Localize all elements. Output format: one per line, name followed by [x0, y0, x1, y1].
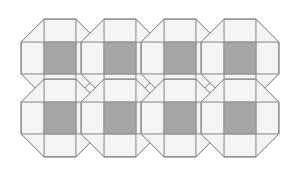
trapezoid-top — [164, 79, 196, 102]
trapezoid-top — [164, 19, 196, 42]
center-square — [224, 42, 256, 74]
trapezoid-bottom — [44, 134, 76, 157]
center-square — [44, 102, 76, 134]
center-square — [224, 102, 256, 134]
tessellation-figure — [0, 0, 297, 189]
trapezoid-top — [44, 19, 76, 42]
trapezoid-right — [256, 42, 279, 74]
trapezoid-top — [224, 19, 256, 42]
trapezoid-left — [141, 102, 164, 134]
trapezoid-right — [256, 102, 279, 134]
octagon-tiles-group — [21, 19, 279, 157]
trapezoid-left — [141, 42, 164, 74]
trapezoid-left — [81, 42, 104, 74]
tessellation-canvas — [0, 0, 297, 189]
trapezoid-bottom — [104, 134, 136, 157]
trapezoid-left — [21, 102, 44, 134]
center-square — [104, 42, 136, 74]
trapezoid-left — [21, 42, 44, 74]
trapezoid-top — [104, 79, 136, 102]
trapezoid-top — [224, 79, 256, 102]
trapezoid-top — [44, 79, 76, 102]
trapezoid-bottom — [164, 134, 196, 157]
trapezoid-left — [81, 102, 104, 134]
center-square — [104, 102, 136, 134]
trapezoid-top — [104, 19, 136, 42]
center-square — [44, 42, 76, 74]
octagon-tile — [201, 79, 279, 157]
trapezoid-left — [201, 42, 224, 74]
center-square — [164, 102, 196, 134]
trapezoid-left — [201, 102, 224, 134]
trapezoid-bottom — [224, 134, 256, 157]
center-square — [164, 42, 196, 74]
